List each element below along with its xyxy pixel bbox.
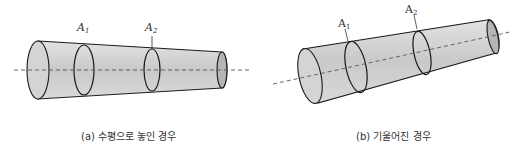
label-a2: A2 — [144, 21, 158, 35]
figure-b-tube: A1 A2 — [273, 3, 510, 106]
a2-leader-line — [414, 15, 417, 29]
tube-body — [303, 20, 499, 103]
label-a2: A2 — [404, 3, 417, 17]
caption-a: (a) 수평으로 놓인 경우 — [81, 128, 176, 143]
figure-a-tube: A1 A2 — [14, 21, 252, 99]
label-a1: A1 — [337, 17, 350, 31]
caption-b: (b) 기울어진 경우 — [356, 128, 431, 143]
diagram-canvas: A1 A2 A1 A2 — [0, 0, 515, 152]
label-a1: A1 — [76, 21, 89, 35]
